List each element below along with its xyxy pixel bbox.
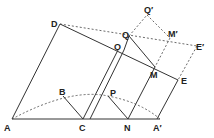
- label-Q: Q: [122, 30, 129, 40]
- label-C: C: [79, 123, 86, 133]
- label-B: B: [59, 87, 66, 97]
- segment-NP: [108, 96, 128, 119]
- label-D: D: [51, 19, 58, 29]
- label-A: A: [4, 123, 11, 133]
- label-N: N: [124, 123, 131, 133]
- label-Q-prime: Q′: [144, 5, 153, 15]
- label-M-prime: M′: [168, 29, 178, 39]
- dashed-QQ': [129, 15, 147, 36]
- label-E-prime: E′: [196, 42, 204, 52]
- label-M: M: [150, 70, 158, 80]
- segment-QM: [129, 36, 155, 67]
- dashed-E'E: [178, 46, 197, 80]
- segment-CO: [83, 50, 118, 119]
- geometry-diagram: A B C D E M N O P Q Q′ M′ E′ A′: [0, 0, 214, 138]
- dashed-M'M: [155, 38, 170, 67]
- segment-CB: [63, 96, 83, 119]
- segment-DE: [60, 24, 178, 80]
- segment-EA': [157, 80, 178, 119]
- dashed-arc: [12, 94, 160, 119]
- label-O: O: [114, 42, 121, 52]
- diagram-canvas: A B C D E M N O P Q Q′ M′ E′ A′: [0, 0, 214, 138]
- segment-AD: [12, 24, 60, 119]
- dashed-Q'M': [147, 15, 170, 38]
- label-P: P: [110, 88, 116, 98]
- label-A-prime: A′: [153, 123, 162, 133]
- label-E: E: [181, 76, 187, 86]
